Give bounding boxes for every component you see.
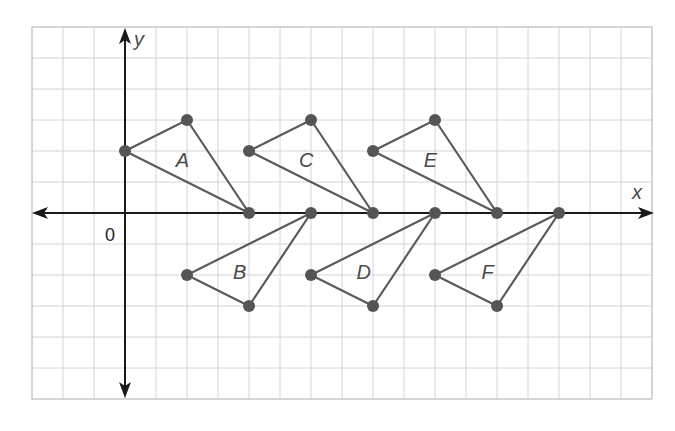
vertex-point <box>553 207 565 219</box>
triangle-label: E <box>424 149 438 171</box>
vertex-point <box>491 300 503 312</box>
x-axis-label: x <box>631 181 643 203</box>
origin-label: 0 <box>105 225 115 245</box>
coordinate-plane: ABCDEF x y 0 <box>0 0 675 431</box>
vertex-point <box>181 269 193 281</box>
y-axis-label: y <box>132 28 145 50</box>
triangle-label: B <box>233 261 246 283</box>
vertex-point <box>367 300 379 312</box>
vertex-point <box>429 114 441 126</box>
vertex-point <box>243 300 255 312</box>
vertex-point <box>181 114 193 126</box>
triangle-label: F <box>482 261 496 283</box>
vertex-point <box>367 207 379 219</box>
triangle-label: C <box>299 149 314 171</box>
triangle-label: A <box>175 149 189 171</box>
vertex-point <box>243 145 255 157</box>
vertex-point <box>119 145 131 157</box>
vertex-point <box>491 207 503 219</box>
vertex-point <box>305 207 317 219</box>
vertex-point <box>429 269 441 281</box>
vertex-point <box>305 114 317 126</box>
vertex-point <box>305 269 317 281</box>
vertex-point <box>429 207 441 219</box>
triangle-label: D <box>356 261 370 283</box>
vertex-point <box>243 207 255 219</box>
vertex-point <box>367 145 379 157</box>
